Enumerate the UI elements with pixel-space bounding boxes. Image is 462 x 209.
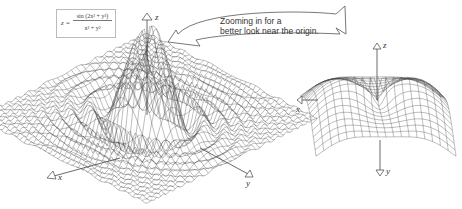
wireframe-line [331, 78, 347, 139]
left-y-arrow-icon [245, 170, 253, 177]
wireframe-line [133, 111, 303, 197]
right-y-label: y [386, 166, 390, 176]
right-surface-wireframe [300, 77, 456, 156]
right-z-arrow-icon [373, 43, 381, 49]
right-y-arrow-icon [376, 170, 384, 176]
left-z-arrow-icon [142, 13, 152, 20]
wireframe-line [409, 78, 425, 139]
wireframe-line [311, 98, 451, 118]
wireframe-line [401, 77, 417, 137]
left-surface-wireframe [0, 26, 317, 203]
formula-lhs: z = [61, 19, 70, 27]
callout-line-2: better look near the origin. [220, 26, 360, 36]
left-x-axis [54, 158, 120, 176]
wireframe-line [29, 59, 199, 145]
wireframe-line [339, 77, 355, 137]
wireframe-line [362, 77, 378, 137]
wireframe-line [0, 115, 152, 200]
wireframe-line [24, 94, 194, 180]
wireframe-line [316, 84, 332, 146]
wireframe-line [34, 91, 204, 176]
left-z-label: z [155, 12, 159, 22]
callout-line-1: Zooming in for a [220, 16, 360, 26]
wireframe-line [0, 118, 147, 203]
wireframe-line [133, 40, 303, 125]
wireframe-line [119, 47, 289, 132]
wireframe-line [119, 104, 289, 190]
right-z-label: z [383, 40, 387, 50]
wireframe-line [123, 106, 293, 191]
left-x-label: x [58, 172, 62, 182]
wireframe-line [142, 116, 312, 201]
wireframe-line [38, 87, 208, 173]
right-x-label: x [296, 104, 300, 114]
left-y-label: y [246, 178, 250, 188]
formula-box: z = sin (2x² + y²) x² + y² [56, 9, 116, 38]
wireframe-line [128, 44, 298, 129]
wireframe-line [1, 105, 171, 190]
wireframe-line [128, 108, 298, 193]
wireframe-line [316, 137, 456, 156]
formula-denominator: x² + y² [73, 25, 112, 31]
wireframe-line [81, 65, 251, 150]
left-x-arrow-icon [47, 171, 56, 179]
wireframe-line [300, 96, 316, 156]
callout-text: Zooming in for a better look near the or… [220, 16, 360, 36]
wireframe-line [5, 104, 175, 189]
wireframe-line [315, 131, 455, 150]
formula-numerator: sin (2x² + y²) [73, 13, 112, 21]
wireframe-line [323, 80, 339, 142]
right-x-arrow-icon [297, 96, 302, 104]
